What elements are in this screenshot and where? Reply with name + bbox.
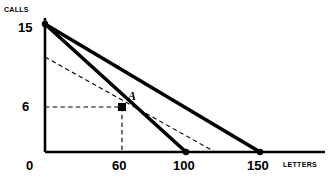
point-a-label: A xyxy=(128,90,136,102)
chart-figure: CALLS LETTERS 15 6 0 60 100 150 A xyxy=(0,0,332,186)
y-tick-label-15: 15 xyxy=(18,21,32,34)
y-tick-label-6: 6 xyxy=(22,100,29,113)
x-axis-title: LETTERS xyxy=(283,161,317,168)
origin-tick-label: 0 xyxy=(26,159,33,172)
endpoint-dot-15 xyxy=(42,21,48,27)
x-tick-label-60: 60 xyxy=(112,159,126,172)
budget-line-dashed xyxy=(45,57,215,152)
frontier-line-short xyxy=(45,24,186,152)
point-a-marker xyxy=(118,103,126,111)
endpoint-dot-150 xyxy=(257,149,263,155)
endpoint-dot-100 xyxy=(183,149,189,155)
frontier-line-long xyxy=(45,24,260,152)
chart-canvas xyxy=(0,0,332,186)
y-axis-title: CALLS xyxy=(4,6,29,13)
x-tick-label-100: 100 xyxy=(173,159,195,172)
x-tick-label-150: 150 xyxy=(247,159,269,172)
